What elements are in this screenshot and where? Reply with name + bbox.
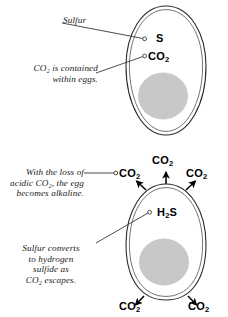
label-co2-escape-bottom-right: CO2	[188, 301, 209, 312]
label-co2-escape-top: CO2	[152, 155, 173, 166]
callout-sulfur: Sulfur	[63, 15, 86, 26]
label-sulfur-symbol: S	[156, 33, 164, 44]
callout-co2-contained: CO₂ is contained within eggs.	[4, 63, 98, 84]
label-co2-escape-bottom-left: CO2	[119, 301, 140, 312]
label-hydrogen-sulfide: H2S	[157, 207, 177, 218]
callout-sulfide: Sulfur converts to hydrogen sulfide as C…	[6, 243, 96, 285]
callout-alkaline: With the loss of acidic CO₂, the egg bec…	[4, 167, 84, 199]
egg-yolk	[138, 73, 188, 120]
label-carbon-dioxide: CO2	[148, 51, 169, 62]
alkaline-leader-line	[84, 171, 118, 175]
aging-egg-yolk	[139, 239, 189, 286]
label-co2-escape-left: CO2	[119, 168, 140, 179]
label-co2-escape-right: CO2	[186, 168, 207, 179]
